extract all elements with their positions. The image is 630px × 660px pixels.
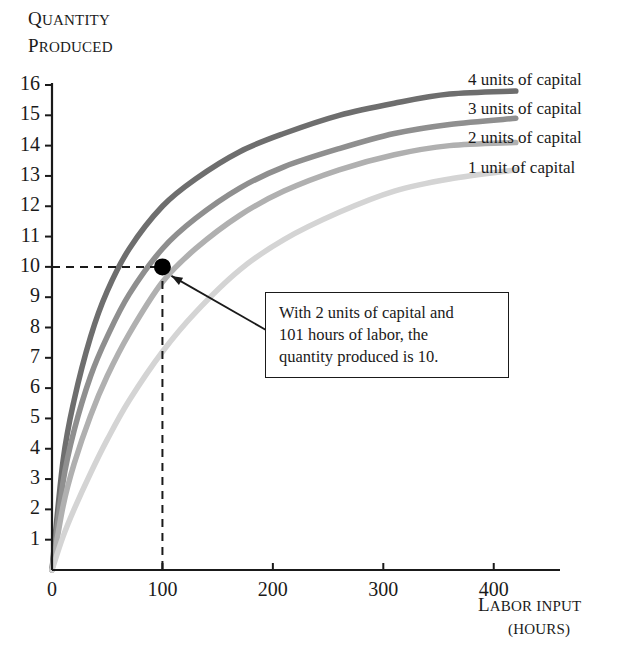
y-axis-title-cap2: P [28, 35, 39, 56]
legend-item-3: 3 units of capital [468, 99, 582, 119]
y-tick-label: 3 [10, 466, 40, 489]
annotation-line-1: With 2 units of capital and [279, 302, 498, 324]
y-axis-title-cap: Q [28, 8, 42, 29]
y-tick-label: 15 [10, 102, 40, 125]
y-axis-title-rest2: RODUCED [39, 39, 113, 55]
y-tick-label: 16 [10, 72, 40, 95]
y-tick-label: 11 [10, 224, 40, 247]
origin-label: 0 [22, 578, 82, 601]
legend-item-4: 4 units of capital [468, 70, 582, 90]
y-axis-title-rest: UANTITY [42, 12, 110, 28]
y-axis-title: QUANTITY PRODUCED [28, 6, 113, 60]
annotation-callout: With 2 units of capital and 101 hours of… [265, 292, 509, 378]
y-tick-label: 7 [10, 345, 40, 368]
annotation-line-2: 101 hours of labor, the [279, 324, 498, 346]
x-axis-units-label: (HOURS) [508, 621, 570, 638]
x-tick-label: 300 [353, 578, 413, 601]
y-tick-label: 12 [10, 193, 40, 216]
data-point-marker [154, 258, 171, 275]
y-tick-label: 14 [10, 133, 40, 156]
y-tick-label: 8 [10, 315, 40, 338]
annotation-line-3: quantity produced is 10. [279, 346, 498, 368]
y-tick-label: 9 [10, 284, 40, 307]
y-tick-label: 2 [10, 496, 40, 519]
y-axis-title-line1: QUANTITY [28, 6, 113, 33]
y-tick-label: 5 [10, 405, 40, 428]
y-tick-label: 13 [10, 163, 40, 186]
y-tick-label: 1 [10, 527, 40, 550]
y-tick-label: 6 [10, 375, 40, 398]
x-tick-label: 400 [464, 578, 524, 601]
x-tick-label: 200 [243, 578, 303, 601]
arrow-head [171, 276, 183, 285]
legend-item-1: 1 unit of capital [468, 158, 575, 178]
production-function-chart: QUANTITY PRODUCED LABOR INPUT (HOURS) 12… [0, 0, 630, 660]
y-tick-label: 10 [10, 254, 40, 277]
y-axis-title-line2: PRODUCED [28, 33, 113, 60]
legend-item-2: 2 units of capital [468, 128, 582, 148]
highlight-point [154, 258, 171, 275]
x-tick-label: 100 [132, 578, 192, 601]
y-tick-label: 4 [10, 436, 40, 459]
